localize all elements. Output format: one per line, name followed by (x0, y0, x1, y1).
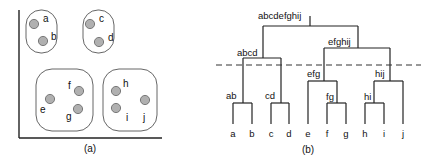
point-label-g: g (66, 111, 72, 122)
leaf-label-a: a (230, 128, 236, 139)
clustering-figure: abcdefghij (a) (0, 0, 433, 162)
cluster-hij: hij (103, 69, 157, 131)
leaf-label-f: f (326, 128, 329, 139)
leaf-label-d: d (286, 128, 291, 139)
data-point-f (74, 86, 83, 95)
node-label-abcdefghij: abcdefghij (258, 10, 301, 21)
leaf-label-i: i (383, 128, 385, 139)
data-point-i (111, 103, 120, 112)
point-label-j: j (142, 112, 145, 123)
leaf-label-c: c (269, 128, 274, 139)
leaf-label-j: j (401, 128, 404, 139)
point-label-b: b (51, 31, 57, 42)
dendrogram-labels: abcdefghij efghij abcd efg hij ab cd fg … (226, 10, 404, 155)
point-label-h: h (123, 78, 129, 89)
data-point-e (45, 94, 54, 103)
panel-a-scatter: abcdefghij (a) (19, 10, 162, 154)
panel-b-caption: (b) (302, 144, 314, 155)
data-point-g (73, 104, 82, 113)
data-point-h (111, 86, 120, 95)
node-label-hij: hij (375, 68, 385, 79)
point-label-f: f (68, 80, 71, 91)
leaf-label-g: g (343, 128, 348, 139)
node-label-abcd: abcd (237, 47, 258, 58)
node-label-ab: ab (226, 90, 237, 101)
leaf-label-b: b (249, 128, 254, 139)
cluster-efg: efg (36, 69, 93, 131)
panel-a-caption: (a) (84, 143, 96, 154)
cluster-cd: cd (83, 10, 114, 53)
data-point-d (94, 37, 103, 46)
data-point-b (38, 36, 47, 45)
point-label-c: c (99, 13, 104, 24)
node-label-efghij: efghij (328, 36, 351, 47)
node-label-cd: cd (265, 90, 275, 101)
leaf-label-e: e (305, 128, 310, 139)
point-label-e: e (40, 104, 46, 115)
cluster-ab: ab (26, 10, 57, 53)
data-point-c (85, 19, 94, 28)
cluster-boundary (36, 69, 93, 131)
point-label-d: d (108, 32, 114, 43)
data-point-a (29, 19, 38, 28)
node-label-hi: hi (364, 91, 371, 102)
point-label-i: i (126, 112, 128, 123)
node-label-fg: fg (326, 91, 334, 102)
leaf-label-h: h (362, 128, 367, 139)
node-label-efg: efg (307, 68, 320, 79)
point-label-a: a (43, 13, 49, 24)
data-point-j (140, 95, 149, 104)
